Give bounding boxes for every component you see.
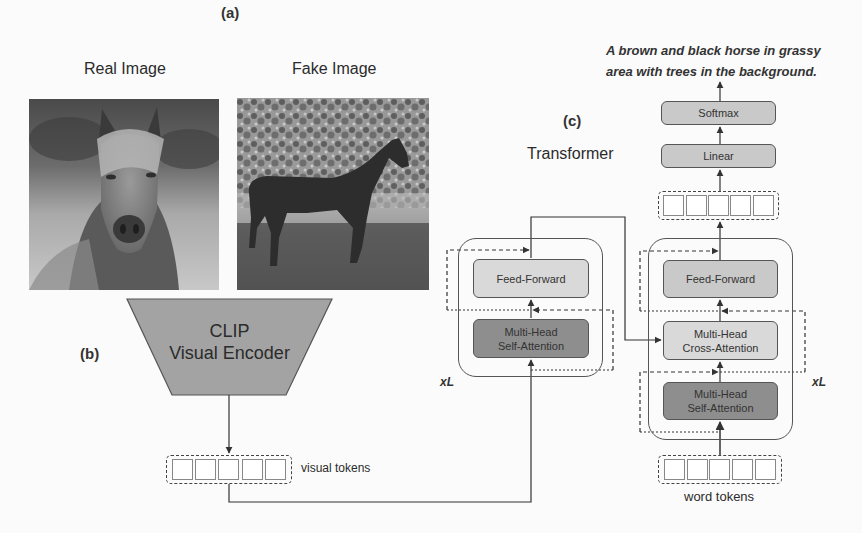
decoder-feed-forward-block: Feed-Forward [663, 260, 778, 298]
word-tokens-group [658, 455, 782, 484]
output-token [708, 195, 729, 216]
output-tokens-group [658, 191, 779, 220]
encoder-self-attention-block: Multi-Head Self-Attention [473, 319, 589, 358]
word-token [664, 459, 685, 480]
visual-token [265, 459, 286, 480]
word-token [687, 459, 708, 480]
word-token [755, 459, 776, 480]
decoder-repeat-label: xL [812, 375, 826, 389]
encoder-self-attention-line2: Self-Attention [498, 339, 564, 353]
output-caption-line1: A brown and black horse in grassy [606, 43, 821, 58]
output-token [753, 195, 774, 216]
output-token [663, 195, 684, 216]
transformer-title: Transformer [527, 145, 614, 163]
encoder-repeat-label: xL [440, 375, 454, 389]
decoder-self-attention-block: Multi-Head Self-Attention [663, 382, 778, 420]
visual-token [218, 459, 239, 480]
visual-token [195, 459, 216, 480]
visual-tokens-group [166, 455, 292, 484]
decoder-self-attention-line1: Multi-Head [694, 387, 747, 401]
output-token [686, 195, 707, 216]
visual-tokens-label: visual tokens [301, 461, 370, 475]
visual-token [242, 459, 263, 480]
visual-token [172, 459, 193, 480]
decoder-cross-attention-block: Multi-Head Cross-Attention [663, 321, 778, 360]
softmax-block: Softmax [661, 101, 776, 125]
word-token [732, 459, 753, 480]
word-tokens-label: word tokens [684, 489, 754, 504]
linear-block: Linear [661, 144, 776, 168]
clip-encoder-shape [127, 299, 332, 395]
output-token [730, 195, 751, 216]
encoder-feed-forward-block: Feed-Forward [473, 259, 589, 298]
encoder-self-attention-line1: Multi-Head [504, 325, 557, 339]
decoder-cross-attention-line1: Multi-Head [694, 327, 747, 341]
decoder-self-attention-line2: Self-Attention [687, 401, 753, 415]
panel-c-tag: (c) [563, 112, 581, 129]
output-caption-line2: area with trees in the background. [606, 64, 817, 79]
word-token [709, 459, 730, 480]
decoder-cross-attention-line2: Cross-Attention [683, 341, 759, 355]
